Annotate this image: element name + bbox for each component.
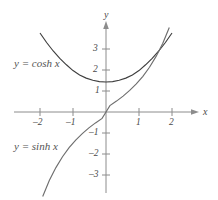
x-tick-label-2: 2: [169, 118, 174, 128]
y-tick-label-1: 1: [95, 86, 100, 96]
x-tick-label-1: 1: [136, 118, 141, 128]
x-tick-label-minus-1: –1: [66, 118, 76, 128]
y-tick-label-3: 3: [93, 44, 98, 54]
y-axis-label: y: [104, 10, 108, 20]
y-tick-label-minus-1: –1: [89, 128, 99, 138]
sinh-curve-label: y = sinh x: [14, 141, 58, 152]
plot-area: [0, 0, 218, 200]
y-axis: [103, 21, 109, 193]
y-tick-label-minus-2: –2: [89, 149, 99, 159]
y-tick-label-2: 2: [93, 65, 98, 75]
cosh-curve-label: y = cosh x: [14, 58, 60, 69]
hyperbolic-functions-figure: y x –2 –1 1 2 3 2 1 –1 –2 –3 y = cosh x …: [0, 0, 218, 200]
x-tick-label-minus-2: –2: [33, 118, 43, 128]
x-axis-label: x: [203, 107, 207, 117]
y-tick-label-minus-3: –3: [89, 170, 99, 180]
